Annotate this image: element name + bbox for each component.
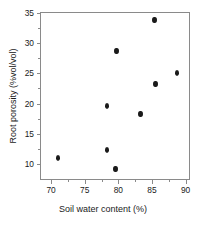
y-axis-tick: [37, 13, 42, 14]
x-axis-minor-tick: [135, 179, 136, 182]
x-axis-minor-tick: [169, 179, 170, 182]
scatter-chart-figure: 1015202530357075808590 Soil water conten…: [0, 0, 206, 229]
y-axis-tick: [37, 73, 42, 74]
y-axis-minor-tick: [38, 88, 41, 89]
y-axis-tick-label: 20: [25, 99, 34, 107]
x-axis-minor-tick: [102, 179, 103, 182]
y-axis-minor-tick: [38, 149, 41, 150]
x-axis-tick-label: 75: [80, 186, 89, 194]
y-axis-tick-label: 25: [25, 69, 34, 77]
x-axis-minor-tick: [68, 179, 69, 182]
data-point: [114, 48, 119, 54]
data-point: [152, 17, 157, 23]
x-axis-tick: [186, 179, 187, 184]
data-point: [113, 166, 118, 172]
x-axis-tick: [51, 179, 52, 184]
x-axis-tick-label: 70: [46, 186, 55, 194]
data-point: [105, 103, 110, 109]
y-axis-tick: [37, 134, 42, 135]
y-axis-title: Root porosity (%vol/vol): [9, 12, 23, 180]
data-point: [153, 81, 158, 87]
y-axis-tick-label: 10: [25, 160, 34, 168]
x-axis-tick: [85, 179, 86, 184]
data-point: [138, 111, 143, 117]
x-axis-tick-label: 90: [181, 186, 190, 194]
y-axis-tick-label: 15: [25, 130, 34, 138]
x-axis-tick-label: 85: [147, 186, 156, 194]
y-axis-tick: [37, 164, 42, 165]
y-axis-tick-label: 35: [25, 9, 34, 17]
plot-area: 1015202530357075808590: [40, 12, 190, 180]
x-axis-tick-label: 80: [114, 186, 123, 194]
data-point: [105, 147, 110, 153]
data-point: [56, 155, 61, 161]
y-axis-tick: [37, 104, 42, 105]
y-axis-tick-label: 30: [25, 39, 34, 47]
y-axis-minor-tick: [38, 28, 41, 29]
x-axis-tick: [152, 179, 153, 184]
x-axis-title: Soil water content (%): [0, 205, 206, 214]
x-axis-tick: [118, 179, 119, 184]
y-axis-tick: [37, 43, 42, 44]
y-axis-minor-tick: [38, 58, 41, 59]
y-axis-minor-tick: [38, 119, 41, 120]
data-point: [175, 70, 180, 76]
